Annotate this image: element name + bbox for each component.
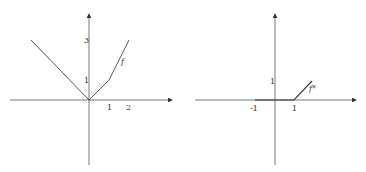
function-fstar-curve	[255, 81, 312, 100]
x-tick-1: 1	[107, 103, 112, 112]
y-tick-1: 1	[84, 76, 89, 85]
y-tick-3: 3	[84, 36, 89, 45]
function-label-fstar: f*	[308, 84, 316, 93]
function-f-curve	[31, 40, 129, 100]
right-plot: -1 1 1 f*	[195, 14, 356, 165]
x-tick-neg1: -1	[250, 104, 258, 113]
y-tick-1: 1	[270, 77, 275, 86]
x-tick-2: 2	[126, 103, 131, 112]
x-tick-1: 1	[292, 104, 297, 113]
left-plot: 1 2 1 3 f	[10, 14, 172, 165]
function-label-f: f	[120, 57, 126, 66]
figure: 1 2 1 3 f -1 1 1 f*	[0, 0, 366, 172]
